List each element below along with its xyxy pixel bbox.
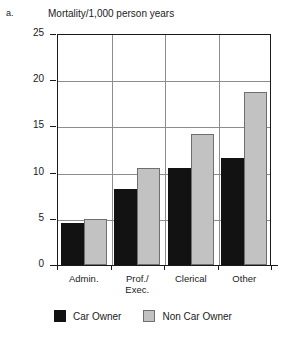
x-axis-label-line1: Prof./ — [111, 273, 165, 284]
x-axis-label-line1: Admin. — [57, 273, 111, 284]
y-tick-label: 10 — [14, 166, 44, 177]
y-tick-label: 0 — [14, 258, 44, 269]
y-tick-mark — [50, 80, 56, 81]
y-tick-label: 20 — [14, 73, 44, 84]
legend-label: Car Owner — [73, 311, 121, 322]
y-tick-mark — [50, 219, 56, 220]
chart-title: Mortality/1,000 person years — [48, 8, 174, 19]
y-tick-label: 25 — [14, 27, 44, 38]
bar-non-car-owner-profexec — [137, 168, 160, 265]
x-axis-label: Admin. — [57, 273, 111, 284]
bar-non-car-owner-admin — [84, 219, 107, 265]
y-tick-label: 15 — [14, 119, 44, 130]
x-axis-label-line1: Clerical — [164, 273, 218, 284]
y-tick-mark — [50, 265, 56, 266]
bar-non-car-owner-clerical — [191, 134, 214, 265]
bars-layer — [57, 34, 271, 265]
bar-car-owner-profexec — [114, 189, 137, 265]
x-axis-label: Prof./Exec. — [111, 273, 165, 295]
x-tick-mark — [57, 265, 58, 270]
x-axis-label-line2: Exec. — [111, 284, 165, 295]
x-axis-label: Other — [218, 273, 272, 284]
legend-item: Car Owner — [54, 310, 121, 322]
y-tick-mark — [50, 34, 56, 35]
bar-car-owner-admin — [61, 223, 84, 265]
y-tick-mark — [50, 173, 56, 174]
x-tick-mark — [271, 265, 272, 270]
figure-panel-a: a. Mortality/1,000 person years 05101520… — [0, 0, 286, 342]
black-square-icon — [54, 310, 66, 322]
bar-car-owner-clerical — [168, 168, 191, 265]
y-tick-mark — [50, 126, 56, 127]
chart-legend: Car OwnerNon Car Owner — [0, 310, 286, 322]
x-tick-mark — [164, 265, 165, 270]
x-tick-mark — [218, 265, 219, 270]
legend-item: Non Car Owner — [143, 310, 231, 322]
x-tick-mark — [111, 265, 112, 270]
panel-letter: a. — [6, 8, 14, 18]
y-tick-label: 5 — [14, 212, 44, 223]
gray-square-icon — [143, 310, 155, 322]
x-axis-label: Clerical — [164, 273, 218, 284]
bar-car-owner-other — [221, 158, 244, 265]
legend-label: Non Car Owner — [162, 311, 231, 322]
x-axis-label-line1: Other — [218, 273, 272, 284]
bar-non-car-owner-other — [244, 92, 267, 265]
